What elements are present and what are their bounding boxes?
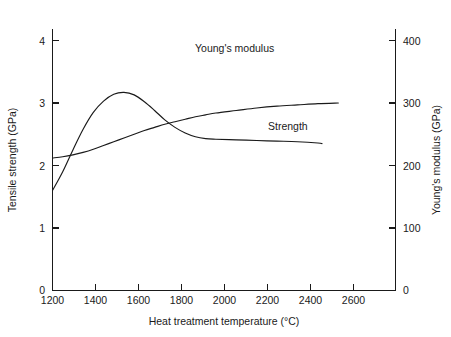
y-tick-label-2: 2 xyxy=(39,160,45,172)
y-axis-left-tick-labels: 4 3 2 1 0 xyxy=(39,35,45,297)
chart-container: 4 3 2 1 0 400 300 200 100 0 xyxy=(0,0,451,337)
x-tick-label-2400: 2400 xyxy=(299,294,323,306)
y-tick-label-4: 4 xyxy=(39,35,45,47)
annotation-strength: Strength xyxy=(268,120,308,132)
y-axis-right-title: Young's modulus (GPa) xyxy=(430,105,442,215)
x-tick-label-1400: 1400 xyxy=(84,294,108,306)
y2-tick-label-400: 400 xyxy=(403,35,421,47)
y-tick-label-3: 3 xyxy=(39,97,45,109)
y2-tick-label-300: 300 xyxy=(403,97,421,109)
y2-tick-label-100: 100 xyxy=(403,222,421,234)
y-axis-right-ticks xyxy=(389,41,396,229)
y-tick-label-1: 1 xyxy=(39,222,45,234)
x-tick-label-1600: 1600 xyxy=(127,294,151,306)
x-tick-label-1200: 1200 xyxy=(41,294,65,306)
series-line-modulus xyxy=(53,92,323,190)
y2-tick-label-0: 0 xyxy=(403,284,409,296)
x-tick-label-2000: 2000 xyxy=(213,294,237,306)
y-axis-left-ticks xyxy=(53,41,60,229)
x-tick-label-1800: 1800 xyxy=(170,294,194,306)
annotation-youngs-modulus: Young's modulus xyxy=(195,42,274,54)
y-axis-left-title: Tensile strength (GPa) xyxy=(6,108,18,212)
y2-tick-label-200: 200 xyxy=(403,160,421,172)
y-axis-right-tick-labels: 400 300 200 100 0 xyxy=(403,35,421,297)
chart-svg: 4 3 2 1 0 400 300 200 100 0 xyxy=(0,0,451,337)
x-axis-tick-labels: 1200 1400 1600 1800 2000 2200 2400 2600 xyxy=(41,294,366,306)
x-tick-label-2600: 2600 xyxy=(342,294,366,306)
x-axis-ticks xyxy=(53,284,354,291)
x-tick-label-2200: 2200 xyxy=(256,294,280,306)
x-axis-title: Heat treatment temperature (°C) xyxy=(149,315,300,327)
